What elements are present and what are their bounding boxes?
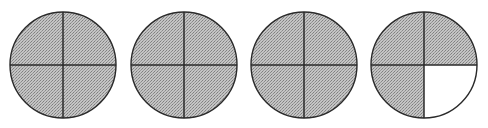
shaded-quarter-top-right bbox=[424, 12, 477, 65]
shaded-quarter-top-right bbox=[184, 12, 237, 65]
shaded-quarter-bottom-left bbox=[251, 65, 304, 118]
shaded-quarter-top-left bbox=[371, 12, 424, 65]
shaded-quarter-bottom-left bbox=[10, 65, 63, 118]
fraction-circle-1 bbox=[10, 12, 116, 118]
shaded-quarter-top-left bbox=[10, 12, 63, 65]
fraction-circles-svg bbox=[0, 0, 488, 128]
shaded-quarter-top-right bbox=[63, 12, 116, 65]
shaded-quarter-bottom-left bbox=[131, 65, 184, 118]
shaded-quarter-bottom-right bbox=[184, 65, 237, 118]
shaded-quarter-top-right bbox=[304, 12, 357, 65]
shaded-quarter-bottom-left bbox=[371, 65, 424, 118]
unshaded-quarter-bottom-right bbox=[424, 65, 477, 118]
shaded-quarter-bottom-right bbox=[304, 65, 357, 118]
shaded-quarter-top-left bbox=[251, 12, 304, 65]
shaded-quarter-top-left bbox=[131, 12, 184, 65]
fraction-circle-4 bbox=[371, 12, 477, 118]
shaded-quarter-bottom-right bbox=[63, 65, 116, 118]
fraction-circle-2 bbox=[131, 12, 237, 118]
fraction-circles-figure bbox=[0, 0, 488, 128]
fraction-circle-3 bbox=[251, 12, 357, 118]
